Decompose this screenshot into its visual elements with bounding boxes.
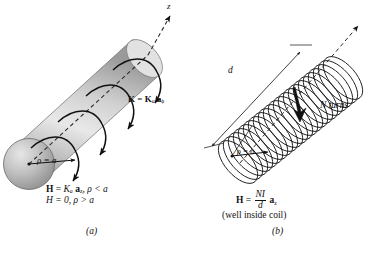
a-sub-z-b: z	[274, 200, 277, 206]
coil-note: (well inside coil)	[222, 211, 286, 221]
equals-2: =	[243, 195, 253, 205]
radius-label-a: ρ = a	[37, 156, 56, 165]
caption-b: (b)	[272, 227, 283, 237]
surface-current-label: K = Ka aϕ	[128, 95, 164, 105]
panel-b-drawing	[0, 0, 376, 254]
turns-text: N turns	[320, 100, 348, 110]
equation-panel-a: H = Ka az, ρ < a H = 0, ρ > a	[46, 185, 108, 207]
a-phi-subscript: ϕ	[161, 98, 164, 104]
condition-inside: , ρ < a	[83, 184, 108, 194]
caption-a: (a)	[86, 227, 97, 237]
fraction-numerator: NI	[255, 190, 267, 201]
equation-a-line2: H = 0, ρ > a	[46, 196, 108, 206]
radius-label-b: ρ = a	[237, 148, 254, 156]
figure-container: z K = Ka aϕ ρ = a H = Ka az, ρ < a H = 0…	[0, 0, 376, 254]
K-sub-a: a	[70, 188, 73, 194]
equals-1: =	[53, 184, 63, 194]
NI-over-d-fraction: NId	[255, 190, 267, 210]
length-label-d: d	[228, 66, 233, 76]
coil-axis-dashed	[240, 26, 358, 163]
equation-a-line1: H = Ka az, ρ < a	[46, 185, 108, 195]
equation-panel-b: H = NId az	[236, 190, 277, 210]
fraction-denominator: d	[255, 201, 267, 211]
z-axis-label: z	[167, 2, 171, 11]
coil-turns	[211, 50, 370, 190]
K-vector-symbol: K = K	[128, 94, 152, 104]
K-subscript: a	[152, 98, 155, 104]
turns-label: N turns	[320, 101, 348, 111]
